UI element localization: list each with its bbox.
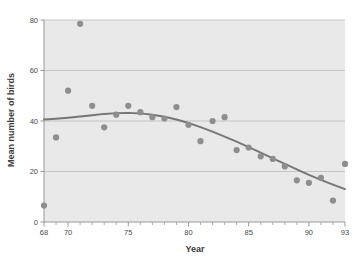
y-tick-label-0: 0 (34, 218, 38, 227)
data-point (318, 175, 324, 181)
data-point (41, 202, 47, 208)
data-point (173, 104, 179, 110)
data-point (197, 138, 203, 144)
bird-population-scatter-chart: 020406080 68707580859093 Year Mean numbe… (0, 0, 361, 269)
data-point (222, 114, 228, 120)
x-tick-label-80: 80 (184, 228, 192, 237)
data-point (330, 197, 336, 203)
data-point (65, 88, 71, 94)
data-point (89, 103, 95, 109)
data-point (77, 21, 83, 27)
y-tick-label-20: 20 (30, 167, 38, 176)
data-point (246, 144, 252, 150)
data-point (209, 118, 215, 124)
x-axis: 68707580859093 (40, 222, 349, 237)
data-point (270, 156, 276, 162)
data-point (113, 112, 119, 118)
x-tick-label-75: 75 (124, 228, 132, 237)
data-point (137, 109, 143, 115)
data-point (234, 147, 240, 153)
y-tick-label-80: 80 (30, 16, 38, 25)
y-tick-label-40: 40 (30, 117, 38, 126)
x-tick-label-70: 70 (64, 228, 72, 237)
data-point (258, 153, 264, 159)
y-axis: 020406080 (30, 16, 44, 227)
data-point (306, 180, 312, 186)
x-tick-label-68: 68 (40, 228, 48, 237)
x-tick-label-93: 93 (341, 228, 349, 237)
data-point (294, 177, 300, 183)
data-point (342, 161, 348, 167)
data-point (282, 163, 288, 169)
data-point (53, 134, 59, 140)
data-point (101, 124, 107, 130)
data-point (149, 114, 155, 120)
data-point (161, 115, 167, 121)
x-tick-label-90: 90 (305, 228, 313, 237)
data-point (185, 122, 191, 128)
y-tick-label-60: 60 (30, 66, 38, 75)
x-tick-label-85: 85 (245, 228, 253, 237)
figure-container: 020406080 68707580859093 Year Mean numbe… (0, 0, 361, 269)
data-point (125, 103, 131, 109)
y-axis-title: Mean number of birds (6, 73, 16, 167)
x-axis-title: Year (185, 244, 205, 254)
